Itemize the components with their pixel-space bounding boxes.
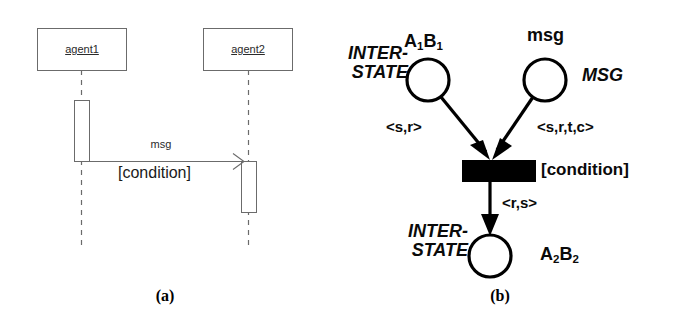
marking-b-subscript: 1	[436, 40, 442, 52]
place-type-label-interstate-target-line1: INTER-	[376, 222, 468, 241]
place-type-label-interstate-source-line2: STATE	[316, 63, 408, 82]
marking-b2-subscript: 2	[572, 253, 578, 265]
place-type-label-interstate-source-line1: INTER-	[316, 44, 408, 63]
place-interstate-target	[469, 235, 511, 277]
lifeline-label-agent2: agent2	[203, 44, 293, 56]
lifeline-label-agent1: agent1	[37, 44, 127, 56]
activation-bar-agent2	[242, 162, 257, 213]
arc-head-transition-to-interstate	[481, 214, 499, 236]
place-type-label-msg: MSG	[582, 66, 623, 85]
message-guard-label: [condition]	[118, 165, 191, 182]
message-name-label: msg	[130, 139, 192, 151]
figure-caption-a: (a)	[135, 288, 195, 305]
place-marking-label-a2b2: A2B2	[540, 245, 579, 265]
arc-inscription-source-to-transition: <s,r>	[386, 119, 422, 135]
place-type-label-interstate-target-line2: STATE	[376, 241, 468, 260]
place-msg	[524, 59, 566, 101]
place-interstate-source	[407, 59, 449, 101]
arc-head-msg-to-transition	[492, 138, 512, 160]
marking-a2: A	[540, 244, 553, 264]
place-marking-label-msg: msg	[523, 26, 568, 45]
figure-canvas: agent1 agent2 msg [condition] INTER- STA…	[0, 0, 674, 328]
arc-head-interstate-to-transition	[470, 140, 490, 160]
place-marking-label-a1b1: A1B1	[404, 32, 443, 52]
arc-inscription-transition-to-target: <r,s>	[502, 195, 537, 211]
marking-a: A	[404, 31, 417, 51]
figure-caption-b: (b)	[470, 288, 530, 305]
transition-bar	[462, 160, 536, 182]
arc-inscription-msg-to-transition: <s,r,t,c>	[537, 119, 594, 135]
activation-bar-agent1	[75, 101, 90, 162]
marking-b2: B	[559, 244, 572, 264]
marking-b: B	[423, 31, 436, 51]
transition-guard-label: [condition]	[541, 161, 629, 179]
